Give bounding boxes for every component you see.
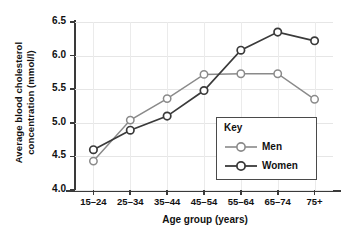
line-chart: Average blood cholesterol concentration … bbox=[0, 0, 350, 233]
x-tick-mark bbox=[93, 190, 95, 195]
y-tick-mark bbox=[70, 189, 75, 191]
y-tick-label: 6.5 bbox=[40, 15, 66, 26]
legend-title: Key bbox=[224, 122, 242, 133]
data-point-men bbox=[163, 95, 170, 102]
y-tick-mark bbox=[70, 156, 75, 158]
data-point-women bbox=[274, 28, 281, 35]
legend-label-women: Women bbox=[262, 160, 298, 171]
y-tick-mark bbox=[70, 55, 75, 57]
x-tick-mark bbox=[203, 190, 205, 195]
legend-swatch-men bbox=[224, 140, 258, 154]
y-tick-label: 4.5 bbox=[40, 149, 66, 160]
data-point-women bbox=[127, 126, 134, 133]
x-tick-mark bbox=[166, 190, 168, 195]
data-point-men bbox=[274, 70, 281, 77]
data-point-women bbox=[311, 37, 318, 44]
data-point-men bbox=[311, 96, 318, 103]
data-point-men bbox=[90, 157, 97, 164]
y-tick-mark bbox=[70, 122, 75, 124]
legend-box: Key Men Women bbox=[216, 117, 317, 180]
data-point-men bbox=[127, 116, 134, 123]
x-tick-mark bbox=[240, 190, 242, 195]
y-tick-label: 5.5 bbox=[40, 82, 66, 93]
data-point-women bbox=[163, 112, 170, 119]
y-tick-label: 5.0 bbox=[40, 116, 66, 127]
x-tick-mark bbox=[314, 190, 316, 195]
y-tick-mark bbox=[70, 21, 75, 23]
x-tick-label: 75+ bbox=[287, 196, 343, 207]
x-tick-mark bbox=[129, 190, 131, 195]
data-point-women bbox=[237, 47, 244, 54]
data-point-men bbox=[200, 71, 207, 78]
y-tick-label: 6.0 bbox=[40, 49, 66, 60]
data-point-women bbox=[90, 146, 97, 153]
legend-label-men: Men bbox=[262, 141, 282, 152]
legend-swatch-women bbox=[224, 159, 258, 173]
y-tick-mark bbox=[70, 88, 75, 90]
y-tick-label: 4.0 bbox=[40, 183, 66, 194]
data-point-men bbox=[237, 70, 244, 77]
x-axis-title: Age group (years) bbox=[60, 214, 350, 225]
data-point-women bbox=[200, 87, 207, 94]
x-tick-mark bbox=[277, 190, 279, 195]
